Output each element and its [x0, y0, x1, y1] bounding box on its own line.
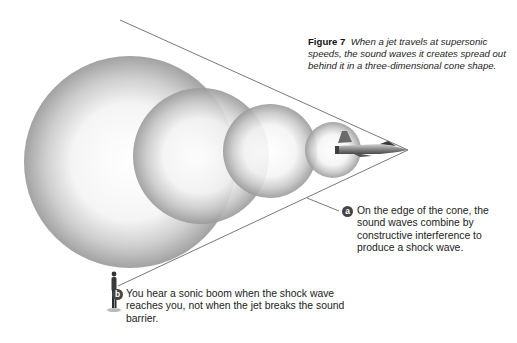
- callout-badge-a: a: [342, 206, 353, 217]
- callout-b-text: You hear a sonic boom when the shock wav…: [126, 288, 356, 325]
- callout-a-text: On the edge of the cone, the sound waves…: [357, 205, 517, 255]
- callout-a-leader: [307, 198, 339, 211]
- wave-sphere-3: [223, 104, 317, 198]
- figure-caption: Figure 7 When a jet travels at supersoni…: [308, 36, 513, 73]
- callout-badge-b: b: [112, 289, 123, 300]
- figure-label: Figure 7: [308, 36, 345, 47]
- sound-wave-spheres: [24, 56, 361, 268]
